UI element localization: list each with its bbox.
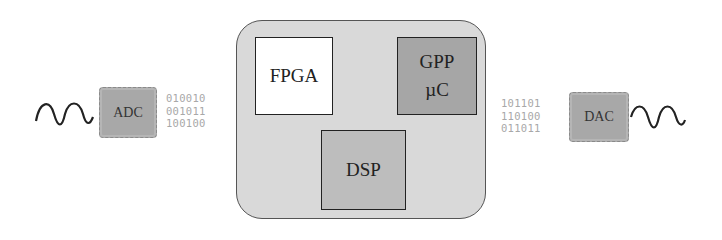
fpga-block: FPGA xyxy=(255,37,333,115)
bit-row: 011011 xyxy=(501,122,541,135)
dsp-block: DSP xyxy=(321,130,406,210)
gpp-label: GPP xyxy=(420,48,455,77)
analog-input-wave-icon xyxy=(36,104,93,125)
adc-chip: ADC xyxy=(99,87,157,138)
dac-label: DAC xyxy=(584,109,614,125)
bit-row: 001011 xyxy=(166,105,206,118)
gpp-block: GPP µC xyxy=(397,37,477,115)
microcontroller-label: µC xyxy=(425,76,449,105)
dsp-label: DSP xyxy=(346,156,381,185)
input-bitstream: 010010 001011 100100 xyxy=(166,92,206,130)
bit-row: 110100 xyxy=(501,110,541,123)
adc-label: ADC xyxy=(113,105,143,121)
output-bitstream: 101101 110100 011011 xyxy=(501,97,541,135)
bit-row: 010010 xyxy=(166,92,206,105)
bit-row: 100100 xyxy=(166,117,206,130)
analog-output-wave-icon xyxy=(631,107,685,128)
fpga-label: FPGA xyxy=(270,62,319,91)
bit-row: 101101 xyxy=(501,97,541,110)
dac-chip: DAC xyxy=(569,92,629,142)
